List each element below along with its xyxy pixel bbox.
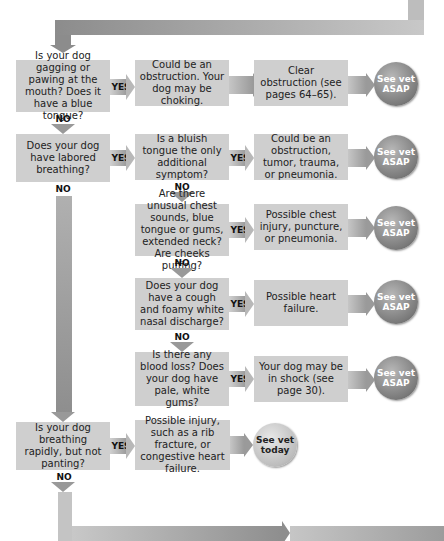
outcome-see-vet-asap: See vet ASAP: [374, 356, 418, 400]
no-arrow-icon: [170, 268, 194, 278]
arrow-connector: [230, 436, 244, 454]
no-label: NO: [51, 184, 75, 194]
question-rapid-breathing: Is your dog breathing rapidly, but not p…: [16, 422, 110, 470]
no-arrow-icon: [51, 412, 75, 422]
yes-arrow-icon: [126, 145, 135, 171]
arrow-connector: [348, 76, 366, 94]
yes-arrow-icon: [245, 217, 254, 243]
no-arrow-icon: [51, 124, 75, 134]
arrow-connector: [348, 295, 366, 313]
action-shock: Your dog may be in shock (see page 30).: [254, 356, 348, 402]
outcome-see-vet-asap: See vet ASAP: [374, 62, 418, 106]
question-cough-discharge: Does your dog have a cough and foamy whi…: [135, 278, 229, 330]
no-label: NO: [51, 114, 75, 124]
action-clear-obstruction: Clear obstruction (see pages 64–65).: [254, 60, 348, 106]
yes-arrow-icon: [245, 366, 254, 392]
question-gagging: Is your dog gagging or pawing at the mou…: [16, 60, 110, 112]
question-labored-breathing: Does your dog have labored breathing?: [16, 134, 110, 182]
arrow-connector: [229, 76, 253, 94]
no-label: NO: [52, 472, 76, 482]
yes-arrow-icon: [245, 291, 254, 317]
no-label: NO: [170, 258, 194, 268]
yes-arrow-icon: [245, 145, 254, 171]
no-trunk: [56, 196, 72, 414]
action-obstruction-tumor: Could be an obstruction, tumor, trauma, …: [254, 134, 348, 180]
outcome-see-vet-today: See vet today: [253, 423, 297, 467]
finding-bluish-tongue: Is a bluish tongue the only additional s…: [135, 134, 229, 180]
outcome-see-vet-asap: See vet ASAP: [374, 206, 418, 250]
outcome-see-vet-asap: See vet ASAP: [374, 135, 418, 179]
arrow-connector: [348, 149, 366, 167]
arrow-connector: [348, 219, 366, 237]
question-blood-loss: Is there any blood loss? Does your dog h…: [135, 352, 229, 406]
no-arrow-icon: [51, 482, 75, 492]
finding-choking: Could be an obstruction. Your dog may be…: [135, 60, 229, 106]
action-injury-congestive: Possible injury, such as a rib fracture,…: [135, 420, 230, 470]
outcome-see-vet-asap: See vet ASAP: [374, 280, 418, 324]
no-label: NO: [170, 332, 194, 342]
question-chest-sounds: Are there unusual chest sounds, blue ton…: [135, 204, 229, 256]
arrow-right-icon: [244, 433, 253, 457]
yes-arrow-icon: [126, 433, 135, 459]
yes-arrow-icon: [126, 74, 135, 100]
action-chest-injury: Possible chest injury, puncture, or pneu…: [254, 204, 348, 250]
action-heart-failure: Possible heart failure.: [254, 280, 348, 326]
arrow-connector: [348, 371, 366, 389]
